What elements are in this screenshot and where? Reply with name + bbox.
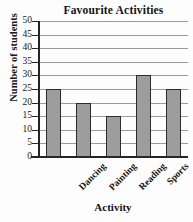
x-axis-tick-label-sports: Sports [165, 161, 191, 187]
bar-dancing [46, 89, 61, 157]
y-axis-tick-mark [32, 89, 38, 90]
x-axis-tick-label-reading: Reading [137, 161, 168, 192]
y-axis-tick-mark [32, 143, 38, 144]
y-axis-tick-mark [32, 62, 38, 63]
gridline [38, 21, 188, 22]
y-axis-tick-label: 20 [16, 98, 32, 108]
y-axis-tick-mark [32, 103, 38, 104]
y-axis-tick-label: 10 [16, 125, 32, 135]
y-axis-tick-mark [32, 21, 38, 22]
bar-sports [136, 75, 151, 157]
bar-reading [106, 116, 121, 157]
y-axis-tick-label: 25 [16, 84, 32, 94]
x-axis-title: Activity [38, 201, 188, 213]
y-axis-tick-mark [32, 75, 38, 76]
y-axis-tick-label: 45 [16, 30, 32, 40]
x-axis-tick-label-painting: Painting [107, 161, 138, 192]
y-axis-line [38, 21, 40, 158]
bar-chart-figure: Favourite Activities Number of students … [0, 0, 193, 222]
y-axis-tick-mark [32, 157, 38, 158]
y-axis-tick-label: 0 [16, 152, 32, 162]
gridline [38, 62, 188, 63]
gridline [38, 75, 188, 76]
x-axis-tick-label-dancing: Dancing [77, 161, 108, 192]
y-axis-tick-mark [32, 48, 38, 49]
bar-painting [76, 103, 91, 157]
bar-music [166, 89, 181, 157]
y-axis-tick-label: 40 [16, 43, 32, 53]
y-axis-tick-label: 50 [16, 16, 32, 26]
y-axis-tick-label: 15 [16, 111, 32, 121]
y-axis-tick-label: 30 [16, 70, 32, 80]
y-axis-tick-label: 35 [16, 57, 32, 67]
y-axis-tick-labels: 05101520253035404550 [12, 0, 32, 222]
y-axis-tick-label: 5 [16, 138, 32, 148]
gridline [38, 48, 188, 49]
gridline [38, 35, 188, 36]
y-axis-tick-mark [32, 35, 38, 36]
y-axis-tick-mark [32, 116, 38, 117]
chart-title: Favourite Activities [34, 4, 193, 16]
y-axis-tick-mark [32, 130, 38, 131]
